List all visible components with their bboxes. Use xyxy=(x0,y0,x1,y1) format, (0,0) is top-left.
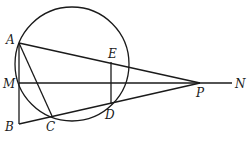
segment-ac xyxy=(19,43,52,116)
geometry-diagram: A M B C D E P N xyxy=(0,0,247,144)
label-n: N xyxy=(234,77,246,91)
label-b: B xyxy=(4,120,14,134)
label-d: D xyxy=(104,108,115,122)
label-a: A xyxy=(5,33,15,47)
label-e: E xyxy=(107,47,117,61)
label-p: P xyxy=(195,86,205,100)
label-m: M xyxy=(2,77,16,91)
label-c: C xyxy=(46,120,55,134)
